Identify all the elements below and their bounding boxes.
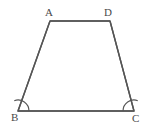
edge-left-BA	[18, 21, 50, 111]
trapezoid-svg	[0, 0, 152, 130]
trapezoid-outline	[18, 21, 134, 111]
edge-right-DC	[110, 21, 134, 111]
vertex-label-b: B	[11, 112, 18, 123]
geometry-figure: A D C B	[0, 0, 152, 130]
vertex-label-a: A	[45, 7, 53, 18]
angle-arc-c	[123, 100, 138, 111]
vertex-label-d: D	[104, 7, 112, 18]
vertex-label-c: C	[132, 113, 139, 124]
